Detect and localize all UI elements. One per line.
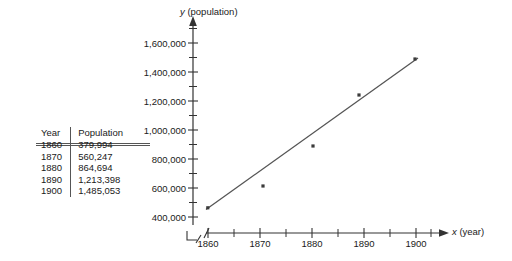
line-of-best-fit (206, 58, 418, 210)
x-axis-arrowhead (439, 229, 449, 237)
x-axis (204, 228, 449, 238)
data-point-1860 (206, 206, 209, 209)
y-axis-break-slash (196, 235, 201, 243)
data-point-1870 (261, 184, 264, 187)
data-point-1900 (413, 57, 416, 60)
data-point-1880 (311, 144, 314, 147)
data-point-1890 (357, 93, 360, 96)
y-axis-break-icon (187, 231, 197, 240)
plot-area (0, 0, 512, 261)
population-scatter-chart: y (population) x (year) 1,600,000 1,400,… (0, 0, 512, 261)
y-axis (187, 16, 201, 243)
y-axis-arrowhead (189, 16, 197, 26)
